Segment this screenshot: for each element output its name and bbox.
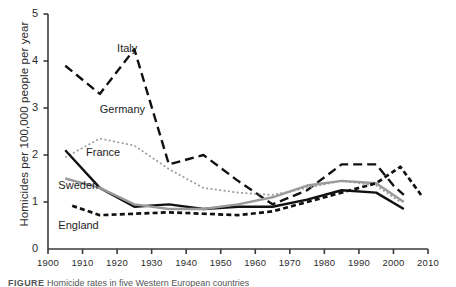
y-tick-label-2: 2	[22, 148, 38, 160]
figure-caption: FIGURE Homicide rates in five Western Eu…	[8, 278, 249, 287]
chart-series-group	[65, 49, 421, 215]
series-line-sweden	[65, 179, 404, 210]
chart-axes	[44, 14, 429, 254]
y-tick-label-5: 5	[22, 7, 38, 19]
series-label-sweden: Sweden	[58, 179, 98, 191]
series-label-england: England	[58, 219, 98, 231]
figure-number: FIGURE	[8, 278, 44, 287]
y-axis-label: Homicides per 100,000 people per year	[18, 4, 30, 244]
series-label-italy: Italy	[117, 42, 137, 54]
figure-caption-text: Homicide rates in five Western European …	[47, 278, 249, 287]
y-tick-label-4: 4	[22, 54, 38, 66]
x-tick-label-2010: 2010	[408, 257, 448, 268]
y-tick-label-0: 0	[22, 242, 38, 254]
series-label-france: France	[86, 146, 120, 158]
y-tick-label-3: 3	[22, 101, 38, 113]
figure-container: Homicides per 100,000 people per year 01…	[0, 0, 456, 287]
y-tick-label-1: 1	[22, 195, 38, 207]
series-label-germany: Germany	[100, 103, 145, 115]
chart-plot-area	[0, 0, 456, 287]
